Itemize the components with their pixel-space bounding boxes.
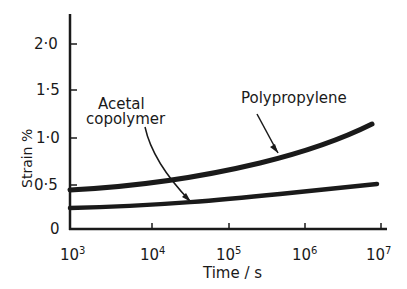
polypropylene-curve (70, 124, 372, 190)
y-tick-label: 2·0 (34, 37, 58, 52)
x-tick-label: 105 (216, 243, 241, 263)
x-axis-label: Time / s (203, 266, 262, 281)
y-tick-label: 1·5 (36, 83, 60, 98)
y-axis-label: Strain % (20, 129, 35, 188)
x-tick-label: 103 (60, 243, 85, 263)
x-tick-label: 107 (366, 243, 391, 263)
polypropylene-label: Polypropylene (241, 91, 347, 106)
acetal-label-line2: copolymer (86, 112, 165, 127)
arrow-head-icon (270, 144, 278, 153)
y-tick-label: 1·0 (36, 131, 60, 146)
acetal-arrow (145, 127, 190, 201)
x-tick-label: 104 (140, 243, 165, 263)
y-tick-label: 0 (50, 222, 60, 237)
x-tick-label: 106 (292, 243, 317, 263)
y-tick-label: 0·5 (34, 178, 58, 193)
